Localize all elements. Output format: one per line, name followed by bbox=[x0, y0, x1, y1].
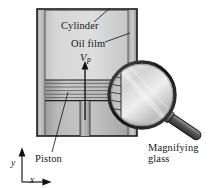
axis-x-arrowhead bbox=[43, 179, 50, 184]
label-piston-velocity: VP bbox=[80, 52, 91, 67]
label-magnifying-glass-line2: glass bbox=[148, 153, 199, 164]
label-axis-y: y bbox=[11, 159, 15, 169]
label-oil-film: Oil film bbox=[71, 38, 105, 49]
label-magnifying-glass-line1: Magnifying bbox=[148, 142, 199, 153]
cylinder-left-wall bbox=[37, 9, 45, 136]
label-cylinder: Cylinder bbox=[61, 20, 99, 31]
physics-diagram-piston-cylinder: Cylinder Oil film VP Piston Magnifying g… bbox=[0, 0, 224, 188]
label-piston: Piston bbox=[35, 153, 62, 164]
axis-y-arrowhead bbox=[19, 149, 24, 156]
label-magnifying-glass: Magnifying glass bbox=[148, 142, 199, 164]
magnifier-grip bbox=[169, 114, 203, 141]
label-piston-velocity-subscript: P bbox=[87, 58, 92, 66]
label-axis-x: x bbox=[30, 176, 34, 186]
